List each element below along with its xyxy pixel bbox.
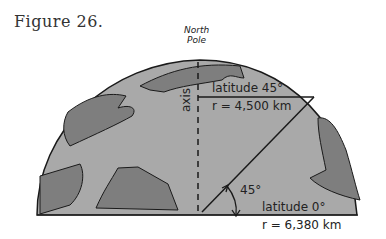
hemisphere-diagram [0,0,386,239]
latitude-45-radius: r = 4,500 km [212,99,291,113]
axis-label: axis [179,88,193,112]
latitude-0-radius: r = 6,380 km [262,218,341,232]
latitude-45-label: latitude 45° [212,81,283,95]
angle-45-label: 45° [240,183,261,197]
latitude-0-label: latitude 0° [262,200,326,214]
